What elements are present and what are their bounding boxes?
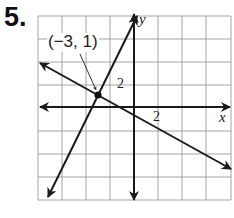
intersection-label: (−3, 1) — [47, 33, 99, 52]
y-tick-label: 2 — [117, 77, 124, 91]
intersection-point — [94, 91, 101, 98]
y-axis-label: y — [139, 12, 146, 27]
coordinate-graph — [0, 0, 234, 218]
x-tick-label: 2 — [153, 110, 160, 124]
x-axis-label: x — [219, 110, 226, 125]
